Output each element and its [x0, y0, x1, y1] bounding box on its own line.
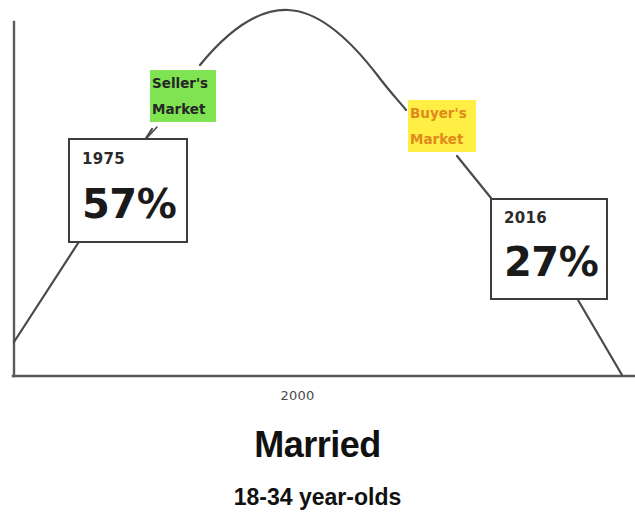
sellers-market-line1: Seller's [152, 70, 214, 96]
chart-title: Married [0, 424, 635, 466]
sellers-market-label: Seller's Market [150, 70, 216, 122]
chart-subtitle: 18-34 year-olds [0, 484, 635, 511]
sellers-market-line2: Market [152, 96, 214, 122]
curve-segment-right [457, 156, 491, 198]
curve-segment-peak [200, 10, 406, 110]
callout-2016-value: 27% [504, 242, 598, 282]
x-axis-tick-label-2000: 2000 [0, 388, 595, 403]
buyers-market-line1: Buyer's [410, 100, 474, 126]
callout-1975-year: 1975 [82, 150, 125, 168]
chart-page: Seller's Market Buyer's Market 1975 57% … [0, 0, 635, 530]
callout-1975-value: 57% [82, 184, 176, 224]
callout-box-2016: 2016 27% [490, 198, 608, 300]
buyers-market-line2: Market [410, 126, 474, 152]
callout-2016-year: 2016 [504, 209, 547, 227]
curve-segment-tail [578, 300, 622, 375]
buyers-market-label: Buyer's Market [408, 100, 476, 152]
callout-box-1975: 1975 57% [68, 138, 188, 243]
